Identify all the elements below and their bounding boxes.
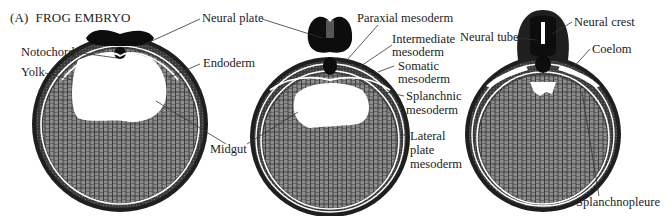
embryo-mid-neurula xyxy=(250,17,410,216)
leader-paraxial-mesoderm xyxy=(347,25,378,60)
label-intermediate-mesoderm-line2: mesoderm xyxy=(392,46,444,59)
leader-somatic-mesoderm xyxy=(378,66,394,72)
embryo-illustrations xyxy=(0,0,666,216)
label-neural-plate: Neural plate xyxy=(202,12,263,25)
label-somatic-mesoderm-line2: mesoderm xyxy=(398,73,450,86)
embryo2-notochord xyxy=(323,57,337,75)
embryo3-notochord xyxy=(535,55,551,73)
label-splanchnic-mesoderm-line1: Splanchnic xyxy=(406,90,462,103)
embryo3-neural-canal xyxy=(541,22,545,44)
label-neural-crest: Neural crest xyxy=(574,16,635,29)
label-endoderm: Endoderm xyxy=(203,57,255,70)
leader-intermediate-mesoderm xyxy=(358,45,392,68)
label-splanchnopleure: Splanchnopleure xyxy=(576,196,660,209)
frog-embryo-figure: (A) FROG EMBRYO xyxy=(0,0,666,216)
label-lateral-plate-mesoderm-line2: plate xyxy=(410,144,434,157)
embryo3-yolk xyxy=(479,75,607,203)
label-lateral-plate-mesoderm-line3: mesoderm xyxy=(410,158,462,171)
label-notochord: Notochord xyxy=(21,46,74,59)
label-splanchnic-mesoderm-line2: mesoderm xyxy=(406,104,458,117)
label-lateral-plate-mesoderm-line1: Lateral xyxy=(410,130,445,143)
embryo2-neural-groove xyxy=(326,20,334,38)
embryo1-neural-plate xyxy=(86,30,154,46)
label-coelom: Coelom xyxy=(592,43,632,56)
embryo1-archenteron xyxy=(72,52,167,122)
label-paraxial-mesoderm: Paraxial mesoderm xyxy=(357,12,453,25)
label-yolk: Yolk xyxy=(21,66,45,79)
label-midgut: Midgut xyxy=(210,143,247,156)
label-neural-tube: Neural tube xyxy=(460,31,519,44)
leader-neural-plate-1 xyxy=(143,19,200,45)
embryo2-gut-cavity xyxy=(294,83,369,128)
